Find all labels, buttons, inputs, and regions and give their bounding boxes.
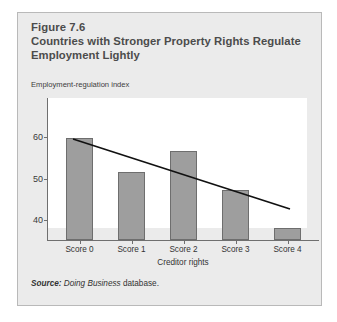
trendline <box>47 98 319 241</box>
x-tick-label-score-0: Score 0 <box>65 245 93 254</box>
x-tick-label-score-2: Score 2 <box>169 245 197 254</box>
plot-area: 60 50 40 <box>47 98 307 228</box>
x-tick-0 <box>80 240 81 244</box>
source-note: Source: Doing Business database. <box>31 279 159 288</box>
figure-panel: Figure 7.6 Countries with Stronger Prope… <box>17 12 322 306</box>
source-emphasis: Doing Business <box>64 279 121 288</box>
y-axis-unit-label: Employment-regulation index <box>31 80 129 89</box>
source-suffix: database. <box>123 279 159 288</box>
figure-screenshot: Figure 7.6 Countries with Stronger Prope… <box>0 0 337 322</box>
x-tick-1 <box>132 240 133 244</box>
source-prefix: Source: <box>31 279 61 288</box>
x-tick-label-score-3: Score 3 <box>221 245 249 254</box>
x-tick-4 <box>288 240 289 244</box>
x-axis-title: Creditor rights <box>47 258 319 267</box>
y-tick-label-40: 40 <box>33 215 43 225</box>
figure-number: Figure 7.6 <box>31 21 85 33</box>
x-tick-label-score-4: Score 4 <box>273 245 301 254</box>
x-tick-2 <box>184 240 185 244</box>
x-tick-3 <box>236 240 237 244</box>
y-tick-label-50: 50 <box>33 174 43 184</box>
plot-inner: 60 50 40 <box>47 98 307 228</box>
y-tick-label-60: 60 <box>33 132 43 142</box>
figure-title: Countries with Stronger Property Rights … <box>31 35 316 62</box>
x-tick-label-score-1: Score 1 <box>117 245 145 254</box>
